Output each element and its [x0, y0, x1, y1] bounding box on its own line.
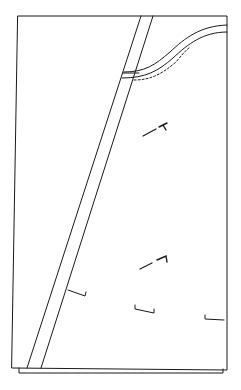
curved-strip-top-edge: [124, 25, 227, 72]
patent-diagram: [0, 0, 241, 390]
tack-head-lower: [157, 256, 167, 262]
tack-mark-upper: [143, 129, 156, 136]
tack-head-upper: [159, 123, 167, 130]
diagonal-strip-right-edge: [41, 16, 153, 368]
diagonal-strip-left-edge: [27, 16, 141, 368]
tack-mark-lower: [140, 263, 152, 269]
bracket-mark-right: [205, 315, 224, 320]
bracket-mark-left: [68, 290, 86, 296]
bracket-mark-center: [135, 305, 154, 313]
outer-panel-outline: [12, 16, 227, 370]
dashed-stitch-line: [134, 47, 190, 80]
